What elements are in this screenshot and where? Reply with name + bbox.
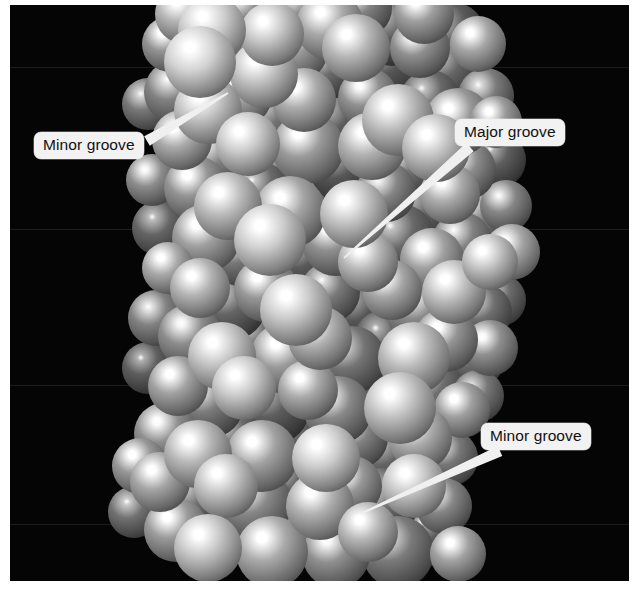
atom-sphere	[260, 274, 332, 346]
callout-minor-groove-bottom: Minor groove	[481, 423, 591, 450]
callout-major-groove: Major groove	[455, 119, 565, 146]
callout-minor-groove-top: Minor groove	[34, 132, 144, 159]
atom-sphere	[278, 360, 338, 420]
atom-sphere	[170, 258, 230, 318]
atom-sphere	[338, 502, 398, 562]
atom-sphere	[364, 372, 436, 444]
figure-page: Minor groove Major groove Minor groove	[0, 0, 641, 600]
atom-sphere	[322, 14, 390, 82]
atom-sphere	[174, 514, 242, 581]
atom-sphere	[240, 5, 304, 66]
atom-sphere	[292, 424, 360, 492]
atom-sphere	[216, 112, 280, 176]
dna-space-filling-model	[10, 5, 629, 581]
atom-sphere	[212, 356, 276, 420]
atom-sphere	[194, 454, 258, 518]
atom-sphere	[430, 526, 486, 581]
atom-sphere	[450, 16, 506, 72]
dna-photograph: Minor groove Major groove Minor groove	[10, 5, 629, 581]
atom-sphere	[164, 26, 236, 98]
atom-sphere	[234, 204, 306, 276]
atom-sphere	[320, 180, 388, 248]
atom-sphere	[382, 454, 446, 518]
atom-sphere	[462, 234, 518, 290]
